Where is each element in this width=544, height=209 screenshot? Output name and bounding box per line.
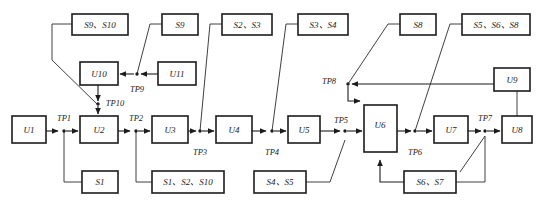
box-u7[interactable]: U7 — [434, 116, 468, 143]
junction-tp6 — [413, 129, 416, 132]
junction-tp2 — [134, 129, 137, 132]
junction-tp8 — [346, 82, 349, 85]
diagram-canvas: S9、S10 S9 S2、S3 S3、S4 S8 — [0, 0, 544, 209]
edge-s4s5-tp5 — [306, 140, 345, 182]
edge-tp8-u6 — [348, 86, 360, 101]
box-label: S5、S6、S8 — [474, 20, 520, 30]
box-label: U9 — [507, 75, 518, 85]
junction-tp4 — [270, 129, 273, 132]
junction-tp7 — [483, 129, 486, 132]
edge-s5s6s8-tp6 — [415, 24, 462, 131]
testpoint-label-tp4: TP4 — [265, 147, 280, 157]
junction-tp5 — [343, 129, 346, 132]
junction-tp3 — [198, 129, 201, 132]
edge-s6s7-u6 — [380, 160, 404, 182]
box-label: S6、S7 — [417, 177, 445, 187]
box-s5-s6-s8[interactable]: S5、S6、S8 — [462, 14, 530, 35]
testpoint-label-tp7: TP7 — [478, 113, 493, 123]
testpoint-label-tp6: TP6 — [408, 147, 423, 157]
box-s1-s2-s10[interactable]: S1、S2、S10 — [152, 171, 224, 193]
box-label: U6 — [375, 120, 386, 130]
box-u6[interactable]: U6 — [364, 105, 397, 152]
testpoint-label-tp10: TP10 — [106, 98, 125, 108]
diagram-boxes: S9、S10 S9 S2、S3 S3、S4 S8 — [12, 14, 532, 193]
box-u5[interactable]: U5 — [288, 116, 320, 143]
box-s9[interactable]: S9 — [162, 14, 198, 35]
edge-s2s3-tp3 — [200, 24, 222, 131]
box-s8[interactable]: S8 — [400, 14, 436, 35]
box-u4[interactable]: U4 — [216, 116, 252, 143]
box-label: U5 — [299, 125, 310, 135]
box-s9-s10[interactable]: S9、S10 — [72, 14, 128, 35]
box-s1[interactable]: S1 — [82, 171, 118, 193]
box-u9[interactable]: U9 — [494, 68, 530, 91]
testpoint-label-tp5: TP5 — [334, 115, 348, 125]
testpoint-label-tp1: TP1 — [57, 113, 71, 123]
edge-s1s2s10-tp2 — [136, 131, 152, 182]
testpoint-label-tp3: TP3 — [193, 147, 207, 157]
junction-tp10 — [96, 102, 99, 105]
box-label: S9、S10 — [84, 20, 116, 30]
box-u2[interactable]: U2 — [80, 116, 118, 143]
box-label: S3、S4 — [310, 20, 338, 30]
junction-tp1 — [62, 129, 65, 132]
block-diagram: S9、S10 S9 S2、S3 S3、S4 S8 — [0, 0, 544, 209]
box-label: S1、S2、S10 — [163, 177, 213, 187]
box-u3[interactable]: U3 — [152, 116, 188, 143]
box-label: S8 — [414, 20, 424, 30]
box-label: S2、S3 — [234, 20, 262, 30]
box-u1[interactable]: U1 — [12, 116, 46, 143]
box-label: U4 — [229, 125, 240, 135]
edge-s8-tp8 — [348, 24, 400, 84]
edge-s3s4-tp4 — [272, 24, 298, 131]
box-label: U3 — [165, 125, 176, 135]
box-label: U8 — [512, 125, 523, 135]
box-u11[interactable]: U11 — [158, 62, 196, 85]
box-label: U7 — [446, 125, 457, 135]
junction-tp9 — [135, 72, 138, 75]
box-label: S1 — [96, 177, 105, 187]
box-label: S4、S5 — [267, 177, 295, 187]
box-u10[interactable]: U10 — [80, 62, 118, 85]
box-u8[interactable]: U8 — [502, 116, 532, 143]
testpoint-label-tp2: TP2 — [129, 113, 144, 123]
box-label: U11 — [170, 69, 185, 79]
box-s3-s4[interactable]: S3、S4 — [298, 14, 348, 35]
testpoint-label-tp9: TP9 — [130, 84, 145, 94]
box-label: S9 — [176, 20, 186, 30]
testpoint-label-tp8: TP8 — [322, 76, 337, 86]
box-label: U2 — [94, 125, 105, 135]
box-label: U10 — [91, 69, 107, 79]
box-s2-s3[interactable]: S2、S3 — [222, 14, 272, 35]
box-s4-s5[interactable]: S4、S5 — [254, 171, 306, 193]
box-label: U1 — [24, 125, 35, 135]
box-s6-s7[interactable]: S6、S7 — [404, 171, 456, 193]
testpoint-labels: TP1 TP2 TP3 TP4 TP5 TP6 TP7 TP8 TP9 TP10 — [57, 76, 493, 157]
junction-dots — [62, 72, 486, 132]
